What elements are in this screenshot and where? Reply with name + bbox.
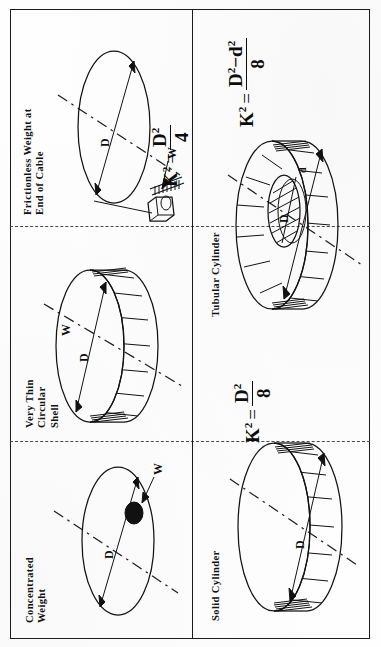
diameter-arrowhead-right xyxy=(129,61,135,73)
weight-block xyxy=(148,196,174,221)
formula-fraction: D2−d2 8 xyxy=(226,38,267,90)
diameter-label: D xyxy=(77,353,91,362)
diagram-frictionless-weight: D xyxy=(56,11,186,223)
shell-bottom-edge xyxy=(124,270,158,422)
cylinder-bottom-edge xyxy=(306,443,342,611)
diameter-arrowhead-left xyxy=(99,595,105,607)
formula-frictionless-weight: K2 = D2 4 xyxy=(150,125,191,187)
formula-denominator: 8 xyxy=(252,381,273,406)
cable-line xyxy=(94,201,152,213)
diameter-line xyxy=(100,477,138,607)
shell-surface-rulings xyxy=(54,272,150,416)
panel-very-thin-circular-shell: Very Thin Circular Shell xyxy=(10,227,192,442)
diameter-label: D xyxy=(293,540,307,549)
formula-numerator: D2−d2 xyxy=(226,38,246,90)
panel-tubular-cylinder: Tubular Cylinder xyxy=(192,9,370,333)
diameter-line xyxy=(76,282,106,412)
formula-equals: = xyxy=(242,409,264,420)
diagram-concentrated-weight: D W xyxy=(50,443,185,633)
formula-lhs-k: K2 xyxy=(236,107,258,127)
formula-solid-cylinder: K2 = D2 8 xyxy=(232,381,273,443)
formula-denominator: 4 xyxy=(170,125,191,150)
weight-label: W xyxy=(151,463,165,475)
cylinder-left-rim-shading xyxy=(274,599,312,611)
outer-diameter-label: D xyxy=(277,214,291,223)
diameter-arrowhead-left xyxy=(76,400,82,412)
panel-solid-cylinder: Solid Cylinder xyxy=(192,333,370,639)
diameter-arrowhead-right xyxy=(133,477,139,489)
tube-top-ellipse xyxy=(236,141,308,309)
formula-fraction: D2 4 xyxy=(150,125,191,150)
diameter-label: D xyxy=(102,550,116,559)
diameter-arrowhead-right xyxy=(100,282,106,294)
formula-tubular-cylinder: K2 = D2−d2 8 xyxy=(226,38,267,127)
scanned-figure-page: Concentrated Weight D xyxy=(0,0,381,647)
formula-denominator: 8 xyxy=(246,38,267,90)
panel-title-tubular-cylinder: Tubular Cylinder xyxy=(210,232,222,317)
formula-fraction: D2 8 xyxy=(232,381,273,406)
weight-label: W xyxy=(59,324,73,336)
diagram-very-thin-circular-shell: D W xyxy=(42,234,187,434)
panel-title-solid-cylinder: Solid Cylinder xyxy=(210,550,222,621)
formula-numerator: D2 xyxy=(232,381,252,406)
diameter-line xyxy=(96,61,134,195)
tube-top-face-rulings xyxy=(237,155,282,293)
tube-bore-hatching xyxy=(269,179,304,243)
formula-numerator: D2 xyxy=(150,125,170,150)
formula-lhs-k: K2 xyxy=(242,423,264,443)
cylinder-front-bottom xyxy=(274,443,310,611)
point-mass-dot xyxy=(125,502,143,524)
diameter-label: D xyxy=(98,138,112,147)
axis-of-rotation-line xyxy=(44,304,182,386)
formula-equals: = xyxy=(160,153,182,164)
circular-path-ellipse xyxy=(82,467,154,615)
panel-frictionless-weight-end-of-cable: Frictionless Weight at End of Cable D xyxy=(10,9,192,227)
circular-path-ellipse xyxy=(78,51,150,203)
panel-title-frictionless-weight: Frictionless Weight at End of Cable xyxy=(22,108,47,215)
cylinder-top-ellipse xyxy=(238,443,310,611)
formula-equals: = xyxy=(236,93,258,104)
panel-title-concentrated-weight: Concentrated Weight xyxy=(24,557,49,623)
tube-surface-rulings xyxy=(235,147,330,301)
figure-rotated-content: Concentrated Weight D xyxy=(0,0,381,647)
shell-bottom-front xyxy=(90,270,124,422)
panel-concentrated-weight: Concentrated Weight D xyxy=(10,442,192,639)
diameter-arrowhead-left xyxy=(95,183,101,195)
inner-diameter-label: d xyxy=(297,167,308,173)
formula-lhs-k: K2 xyxy=(160,167,182,187)
